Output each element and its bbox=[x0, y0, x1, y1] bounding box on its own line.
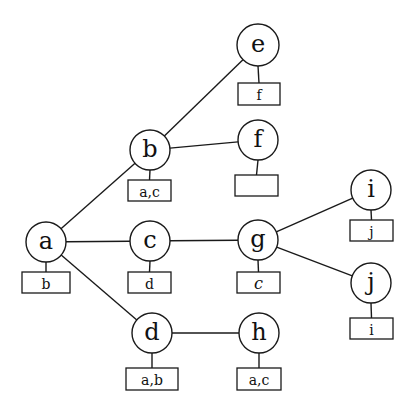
label-box-text: c bbox=[254, 274, 263, 293]
node-f: f bbox=[238, 120, 278, 160]
node-label: b bbox=[142, 135, 157, 163]
node-j: j bbox=[351, 263, 391, 303]
node-a: a bbox=[26, 222, 66, 262]
box-connectors-layer bbox=[46, 66, 372, 368]
edges-layer bbox=[61, 60, 353, 333]
label-box-e: f bbox=[238, 83, 280, 105]
label-box-rect bbox=[235, 175, 278, 196]
label-box-f bbox=[235, 175, 278, 196]
box-connector-f bbox=[257, 160, 259, 175]
label-box-text: b bbox=[42, 276, 51, 292]
label-box-j: i bbox=[350, 318, 393, 339]
edge-g-j bbox=[277, 247, 353, 276]
node-h: h bbox=[239, 313, 279, 353]
box-connector-j bbox=[371, 303, 372, 318]
nodes-layer: abcdefghij bbox=[26, 24, 391, 353]
node-d: d bbox=[132, 313, 172, 353]
edge-a-b bbox=[61, 163, 135, 228]
edge-g-i bbox=[276, 198, 352, 232]
box-connector-g bbox=[258, 260, 259, 272]
node-label: c bbox=[143, 226, 156, 254]
graph-diagram: ba,cda,bfca,cji abcdefghij bbox=[0, 0, 415, 410]
label-box-text: a,c bbox=[139, 184, 160, 200]
label-boxes-layer: ba,cda,bfca,cji bbox=[22, 83, 393, 390]
label-box-b: a,c bbox=[128, 180, 171, 201]
node-label: i bbox=[367, 175, 375, 203]
label-box-text: a,b bbox=[141, 372, 163, 388]
label-box-i: j bbox=[350, 220, 393, 241]
box-connector-i bbox=[371, 210, 372, 220]
edge-c-g bbox=[170, 240, 238, 241]
node-e: e bbox=[237, 24, 279, 66]
label-box-text: d bbox=[145, 276, 154, 292]
node-g: g bbox=[238, 220, 278, 260]
node-i: i bbox=[351, 170, 391, 210]
edge-a-d bbox=[61, 255, 137, 320]
node-b: b bbox=[130, 130, 170, 170]
node-label: a bbox=[39, 227, 53, 255]
node-label: g bbox=[250, 225, 265, 253]
node-label: e bbox=[251, 30, 265, 58]
node-label: d bbox=[144, 318, 159, 346]
box-connector-c bbox=[150, 261, 151, 272]
label-box-c: d bbox=[128, 272, 171, 293]
label-box-text: a,c bbox=[249, 372, 270, 388]
node-c: c bbox=[130, 221, 170, 261]
box-connector-b bbox=[150, 170, 151, 180]
edge-a-c bbox=[66, 241, 130, 242]
label-box-text: i bbox=[369, 322, 374, 338]
label-box-a: b bbox=[22, 272, 70, 293]
edge-b-e bbox=[164, 60, 243, 136]
label-box-g: c bbox=[237, 272, 280, 293]
label-box-h: a,c bbox=[237, 368, 281, 390]
edge-b-f bbox=[170, 142, 238, 148]
node-label: h bbox=[251, 318, 266, 346]
label-box-d: a,b bbox=[126, 368, 178, 390]
box-connector-e bbox=[258, 66, 259, 83]
